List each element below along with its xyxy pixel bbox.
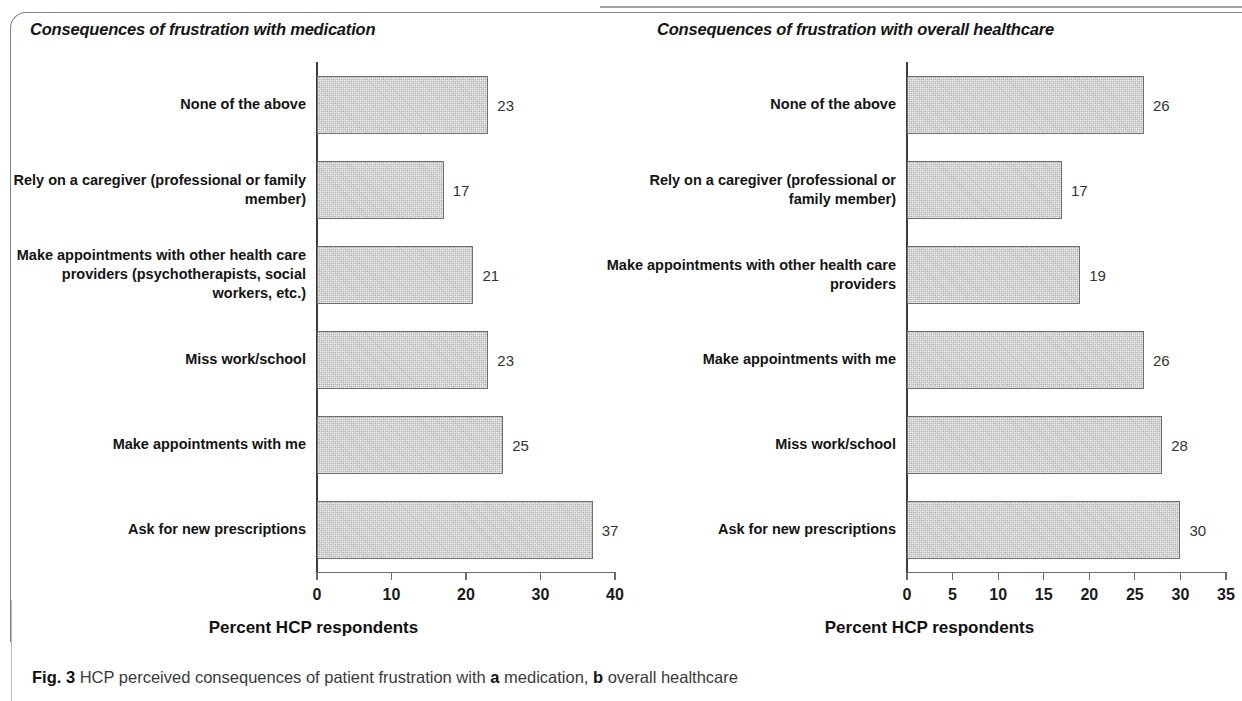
category-label: Make appointments with me [6,435,306,454]
bar-b-4[interactable] [907,416,1162,474]
x-tick-label-b-15: 15 [1035,586,1053,604]
x-tick-b-15 [1043,572,1044,580]
bar-a-3[interactable] [317,331,488,389]
x-tick-a-0 [316,572,317,580]
chart-panel-a: Consequences of frustration with medicat… [0,0,621,642]
bar-row: 17Rely on a caregiver (professional or f… [907,161,1226,219]
caption-segment-1: HCP perceived consequences of patient fr… [75,668,490,686]
bar-b-5[interactable] [907,501,1180,559]
x-tick-label-a-0: 0 [313,586,322,604]
x-tick-b-35 [1225,572,1226,580]
caption-segment-2: medication, [499,668,593,686]
x-tick-a-30 [540,572,541,580]
bar-a-0[interactable] [317,76,488,134]
category-label: Make appointments with other health care… [6,246,306,304]
figure-caption: Fig. 3 HCP perceived consequences of pat… [32,668,738,687]
bar-row: 19Make appointments with other health ca… [907,246,1226,304]
bar-a-5[interactable] [317,501,593,559]
bar-value-label: 28 [1171,436,1188,453]
bar-b-2[interactable] [907,246,1080,304]
bar-row: 28Miss work/school [907,416,1226,474]
bar-a-1[interactable] [317,161,444,219]
x-tick-a-10 [391,572,392,580]
plot-area-a: 01020304023None of the above17Rely on a … [317,62,615,572]
bar-value-label: 21 [482,266,499,283]
bar-b-3[interactable] [907,331,1144,389]
bar-value-label: 30 [1189,521,1206,538]
bar-value-label: 17 [1071,181,1088,198]
bar-row: 26None of the above [907,76,1226,134]
category-label: Rely on a caregiver (professional or fam… [606,170,896,209]
chart-title-b: Consequences of frustration with overall… [657,20,1054,39]
x-tick-label-b-0: 0 [903,586,912,604]
caption-label-b: b [593,668,603,686]
category-label: Rely on a caregiver (professional or fam… [6,170,306,209]
category-label: Miss work/school [606,435,896,454]
x-tick-a-20 [465,572,466,580]
bar-a-2[interactable] [317,246,473,304]
x-tick-label-b-20: 20 [1080,586,1098,604]
plot-area-b: 0510152025303526None of the above17Rely … [907,62,1226,572]
bar-row: 26Make appointments with me [907,331,1226,389]
category-label: Make appointments with me [606,350,896,369]
bar-value-label: 26 [1153,351,1170,368]
x-tick-b-20 [1089,572,1090,580]
category-label: None of the above [606,95,896,114]
bar-value-label: 23 [497,96,514,113]
category-label: Ask for new prescriptions [606,520,896,539]
bar-value-label: 23 [497,351,514,368]
x-tick-label-a-10: 10 [383,586,401,604]
category-label: None of the above [6,95,306,114]
y-axis-a [316,62,318,572]
x-tick-label-b-10: 10 [989,586,1007,604]
x-tick-b-5 [952,572,953,580]
x-tick-label-b-35: 35 [1217,586,1235,604]
figure-page: Consequences of frustration with medicat… [0,0,1242,701]
bar-row: 17Rely on a caregiver (professional or f… [317,161,615,219]
bar-a-4[interactable] [317,416,503,474]
chart-title-a: Consequences of frustration with medicat… [30,20,375,39]
x-tick-a-40 [614,572,615,580]
bar-row: 25Make appointments with me [317,416,615,474]
x-tick-b-30 [1180,572,1181,580]
figure-number: Fig. 3 [32,668,75,686]
x-axis-title-b: Percent HCP respondents [619,618,1240,638]
chart-panel-b: Consequences of frustration with overall… [621,0,1242,642]
x-axis-b [906,572,1226,573]
caption-segment-3: overall healthcare [603,668,738,686]
x-tick-label-a-20: 20 [457,586,475,604]
x-tick-b-25 [1134,572,1135,580]
bar-value-label: 25 [512,436,529,453]
bar-row: 30Ask for new prescriptions [907,501,1226,559]
x-tick-label-a-30: 30 [532,586,550,604]
x-axis-title-a: Percent HCP respondents [3,618,624,638]
bar-b-1[interactable] [907,161,1062,219]
bar-row: 23None of the above [317,76,615,134]
category-label: Make appointments with other health care… [606,255,896,294]
bar-value-label: 19 [1089,266,1106,283]
bar-value-label: 26 [1153,96,1170,113]
bar-row: 23Miss work/school [317,331,615,389]
category-label: Miss work/school [6,350,306,369]
bar-row: 37Ask for new prescriptions [317,501,615,559]
bar-b-0[interactable] [907,76,1144,134]
x-tick-label-b-25: 25 [1126,586,1144,604]
y-axis-b [906,62,908,572]
category-label: Ask for new prescriptions [6,520,306,539]
x-tick-label-b-5: 5 [948,586,957,604]
x-tick-label-b-30: 30 [1172,586,1190,604]
x-tick-b-10 [998,572,999,580]
x-tick-b-0 [906,572,907,580]
bar-value-label: 17 [453,181,470,198]
bar-row: 21Make appointments with other health ca… [317,246,615,304]
